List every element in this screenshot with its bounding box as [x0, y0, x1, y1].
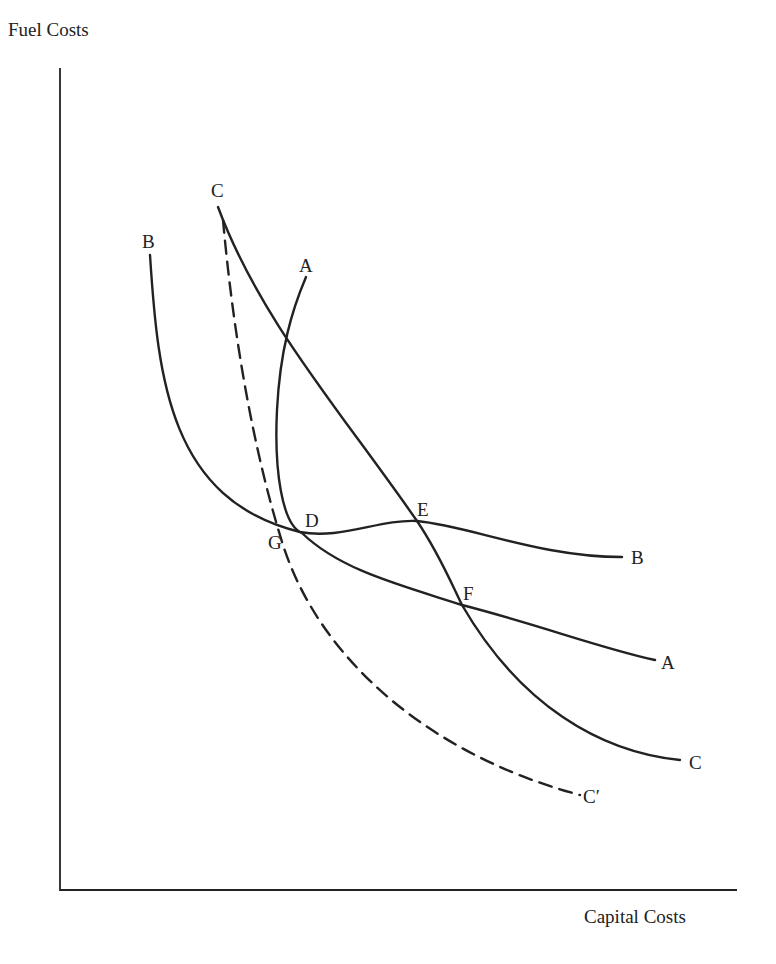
point-g-label: G — [268, 532, 282, 553]
y-axis-label: Fuel Costs — [8, 19, 89, 40]
point-e-label: E — [417, 499, 429, 520]
curve-c-prime-end-label: C′ — [583, 786, 600, 807]
curve-b-end-label: B — [631, 547, 644, 568]
curve-a-end-label: A — [661, 652, 675, 673]
curve-c — [218, 207, 680, 760]
point-d-label: D — [305, 510, 319, 531]
diagram-canvas: Fuel Costs Capital Costs C B A B A C C′ … — [0, 0, 776, 964]
curve-a-start-label: A — [299, 255, 313, 276]
curve-c-start-label: C — [211, 180, 224, 201]
curve-c-end-label: C — [689, 752, 702, 773]
curve-b — [150, 255, 622, 557]
axes — [60, 68, 737, 890]
point-f-label: F — [463, 583, 474, 604]
isocost-diagram: Fuel Costs Capital Costs C B A B A C C′ … — [0, 0, 776, 964]
x-axis-label: Capital Costs — [584, 906, 686, 927]
curve-b-start-label: B — [142, 231, 155, 252]
curve-c-prime — [223, 220, 580, 795]
